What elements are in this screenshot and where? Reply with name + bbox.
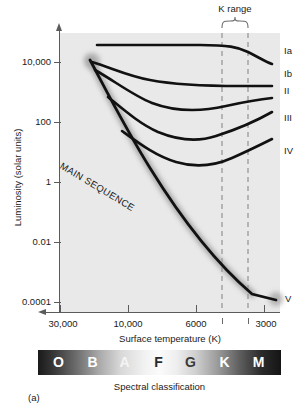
spectral-letter-F: F — [146, 350, 171, 375]
y-tick-3 — [54, 242, 61, 243]
x-tick-0 — [60, 305, 61, 312]
class-label-Ib: Ib — [284, 69, 292, 79]
class-label-V: V — [285, 294, 291, 304]
y-axis-line — [59, 30, 60, 313]
y-axis-arrow-icon — [56, 23, 62, 31]
x-tick-label-3: 3000 — [255, 319, 276, 329]
y-tick-label-4: 0.0001 — [22, 297, 51, 307]
y-tick-1 — [54, 122, 61, 123]
x-tick-3 — [264, 305, 265, 312]
x-tick-2 — [196, 305, 197, 312]
class-label-II: II — [284, 86, 289, 96]
x-axis-arrow-icon — [38, 309, 46, 315]
spectral-classification-caption: Spectral classification — [38, 381, 281, 392]
spectral-letter-M: M — [246, 350, 271, 375]
x-axis-line — [44, 312, 280, 313]
curve-class-Ia — [97, 45, 272, 64]
k-range-label: K range — [200, 3, 270, 14]
x-tick-krange-right — [248, 318, 249, 324]
curve-class-Ib — [92, 62, 272, 86]
x-tick-1 — [128, 305, 129, 312]
x-tick-label-2: 6000 — [185, 319, 206, 329]
curve-class-II — [95, 70, 272, 110]
x-tick-label-1: 10,000 — [113, 319, 142, 329]
x-tick-krange-left — [222, 318, 223, 324]
y-tick-label-2: 1 — [46, 177, 51, 187]
x-axis-title: Surface temperature (K) — [60, 333, 280, 344]
spectral-letter-K: K — [212, 350, 237, 375]
k-range-brace-icon — [222, 17, 248, 28]
x-tick-label-0: 30,000 — [48, 319, 77, 329]
figure-letter-label: (a) — [28, 392, 40, 403]
y-tick-label-0: 10,000 — [22, 57, 51, 67]
hr-diagram-figure: 10,000 100 1 0.01 0.0001 30,000 10,000 6… — [0, 0, 305, 411]
spectral-letter-G: G — [178, 350, 203, 375]
spectral-letter-A: A — [112, 350, 137, 375]
y-tick-label-1: 100 — [35, 117, 51, 127]
class-label-IV: IV — [284, 146, 293, 156]
y-tick-label-3: 0.01 — [33, 237, 52, 247]
main-sequence-glow — [90, 60, 252, 294]
y-tick-2 — [54, 182, 61, 183]
y-tick-4 — [54, 302, 61, 303]
spectral-letter-B: B — [80, 350, 105, 375]
class-label-Ia: Ia — [284, 46, 292, 56]
y-axis-title: Luminosity (solar units) — [12, 98, 23, 258]
spectral-letter-O: O — [46, 350, 71, 375]
y-tick-0 — [54, 62, 61, 63]
class-label-III: III — [284, 113, 292, 123]
